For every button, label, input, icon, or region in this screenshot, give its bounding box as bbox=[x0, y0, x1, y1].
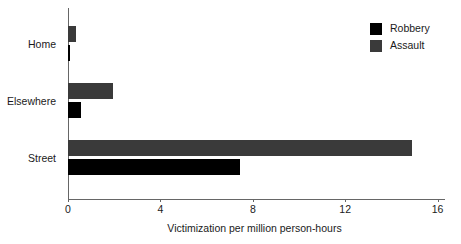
x-tick-label-16: 16 bbox=[418, 203, 458, 215]
bar-assault-elsewhere bbox=[68, 83, 113, 99]
bar-robbery-elsewhere bbox=[68, 102, 81, 118]
legend-label-assault: Assault bbox=[390, 39, 424, 52]
bar-robbery-home bbox=[68, 45, 70, 61]
x-tick-mark-0 bbox=[68, 199, 69, 202]
legend-swatch-robbery-icon bbox=[370, 23, 382, 35]
x-axis-title: Victimization per million person-hours bbox=[0, 222, 461, 234]
bar-assault-home bbox=[68, 26, 76, 42]
legend-item-assault: Assault bbox=[370, 38, 460, 55]
x-tick-mark-16 bbox=[438, 199, 439, 202]
bar-robbery-street bbox=[68, 159, 240, 175]
legend-swatch-assault-icon bbox=[370, 40, 382, 52]
legend-item-robbery: Robbery bbox=[370, 21, 460, 38]
chart-legend: Robbery Assault bbox=[370, 21, 460, 55]
x-tick-label-8: 8 bbox=[233, 203, 273, 215]
x-tick-mark-12 bbox=[345, 199, 346, 202]
x-tick-mark-8 bbox=[253, 199, 254, 202]
x-axis-title-text: Victimization per million person-hours bbox=[167, 222, 341, 234]
x-axis-line bbox=[68, 199, 445, 200]
y-axis-label-street: Street bbox=[28, 152, 56, 164]
x-tick-mark-4 bbox=[160, 199, 161, 202]
bar-chart: HomeElsewhereStreet 0481216 Victimizatio… bbox=[0, 0, 461, 244]
x-tick-label-4: 4 bbox=[140, 203, 180, 215]
y-axis-label-elsewhere: Elsewhere bbox=[7, 95, 56, 107]
legend-label-robbery: Robbery bbox=[390, 22, 430, 35]
x-tick-label-0: 0 bbox=[48, 203, 88, 215]
bar-assault-street bbox=[68, 140, 412, 156]
x-tick-label-12: 12 bbox=[325, 203, 365, 215]
y-axis-label-home: Home bbox=[28, 38, 56, 50]
